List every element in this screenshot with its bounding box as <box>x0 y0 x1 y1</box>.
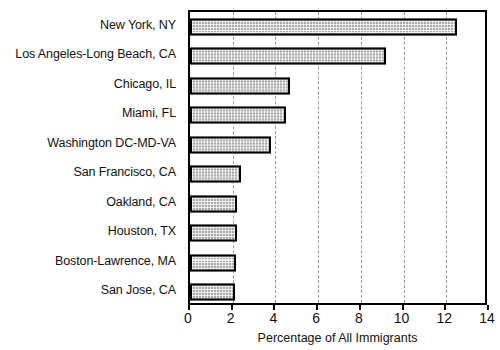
category-label: Miami, FL <box>0 106 176 120</box>
x-tick-label: 6 <box>312 310 320 327</box>
bar <box>190 136 271 153</box>
plot-area <box>188 10 487 305</box>
category-label: San Francisco, CA <box>0 165 176 179</box>
category-label: Oakland, CA <box>0 195 176 209</box>
bar-chart: New York, NYLos Angeles-Long Beach, CACh… <box>0 0 500 350</box>
gridline <box>446 12 447 303</box>
category-label: New York, NY <box>0 18 176 32</box>
x-tick-label: 10 <box>394 310 410 327</box>
category-label: San Jose, CA <box>0 283 176 297</box>
category-axis-labels: New York, NYLos Angeles-Long Beach, CACh… <box>0 10 182 305</box>
category-label: Los Angeles-Long Beach, CA <box>0 47 176 61</box>
x-tick-label: 12 <box>436 310 452 327</box>
x-tick-label: 2 <box>227 310 235 327</box>
x-tick-label: 0 <box>184 310 192 327</box>
bar <box>190 77 290 94</box>
x-axis-title: Percentage of All Immigrants <box>188 331 487 346</box>
bar <box>190 18 457 35</box>
bar <box>190 254 236 271</box>
plot-inner <box>190 12 485 303</box>
x-tick-label: 4 <box>270 310 278 327</box>
bar <box>190 107 286 124</box>
x-tick-label: 14 <box>479 310 495 327</box>
gridline <box>404 12 405 303</box>
bar <box>190 48 386 65</box>
category-label: Chicago, IL <box>0 77 176 91</box>
category-label: Washington DC-MD-VA <box>0 136 176 150</box>
bar <box>190 195 237 212</box>
bar <box>190 225 237 242</box>
x-tick-label: 8 <box>355 310 363 327</box>
category-label: Boston-Lawrence, MA <box>0 254 176 268</box>
category-label: Houston, TX <box>0 224 176 238</box>
bar <box>190 166 241 183</box>
bar <box>190 284 235 301</box>
